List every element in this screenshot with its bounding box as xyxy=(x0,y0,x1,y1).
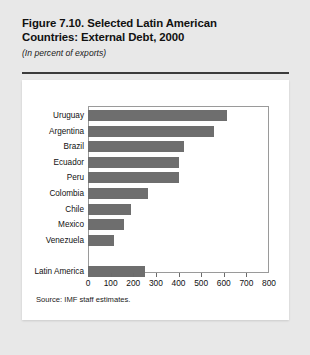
bar xyxy=(88,141,184,152)
bar-category-label: Chile xyxy=(65,204,84,215)
x-axis-tick xyxy=(179,273,180,277)
x-axis-tick-label: 100 xyxy=(104,278,118,288)
bar xyxy=(88,172,179,183)
x-axis-tick xyxy=(201,273,202,277)
x-axis-tick-label: 500 xyxy=(194,278,208,288)
figure-title-line-1: Figure 7.10. Selected Latin American xyxy=(22,16,290,30)
bar xyxy=(88,235,114,246)
bar-category-label: Colombia xyxy=(49,188,84,199)
bar-category-label: Brazil xyxy=(64,141,84,152)
x-axis-tick-label: 800 xyxy=(262,278,276,288)
bar-row: Venezuela xyxy=(88,235,269,246)
bar xyxy=(88,110,227,121)
header-divider xyxy=(22,72,289,74)
x-axis-tick-label: 200 xyxy=(126,278,140,288)
bar-row: Brazil xyxy=(88,141,269,152)
x-axis-tick-label: 700 xyxy=(239,278,253,288)
x-axis-tick-label: 0 xyxy=(86,278,91,288)
bar-category-label: Argentina xyxy=(49,126,84,137)
bar-row: Mexico xyxy=(88,219,269,230)
bar-category-label: Ecuador xyxy=(54,157,85,168)
bar xyxy=(88,157,179,168)
bar-category-label: Latin America xyxy=(34,266,84,277)
bar xyxy=(88,126,214,137)
bar-row: Peru xyxy=(88,172,269,183)
bar-row: Chile xyxy=(88,204,269,215)
bar-row: Ecuador xyxy=(88,157,269,168)
x-axis-tick-label: 300 xyxy=(149,278,163,288)
bar-category-label: Mexico xyxy=(58,219,84,230)
bar xyxy=(88,188,148,199)
bar xyxy=(88,204,131,215)
x-axis-tick-label: 600 xyxy=(217,278,231,288)
plot-area: UruguayArgentinaBrazilEcuadorPeruColombi… xyxy=(22,80,289,320)
bar-category-label: Uruguay xyxy=(53,110,84,121)
x-axis-tick-labels: 0100200300400500600700800 xyxy=(88,278,269,290)
x-axis-tick xyxy=(133,273,134,277)
bar-row: Uruguay xyxy=(88,110,269,121)
figure-subtitle: (In percent of exports) xyxy=(22,48,290,59)
source-note: Source: IMF staff estimates. xyxy=(36,295,130,304)
figure-container: Figure 7.10. Selected Latin American Cou… xyxy=(0,0,310,355)
x-axis-tick xyxy=(156,273,157,277)
bar-category-label: Venezuela xyxy=(46,235,84,246)
bar-category-label: Peru xyxy=(67,172,84,183)
x-axis-ticks xyxy=(88,273,269,277)
bar-row: Argentina xyxy=(88,126,269,137)
figure-header: Figure 7.10. Selected Latin American Cou… xyxy=(22,16,290,59)
bar-row: Colombia xyxy=(88,188,269,199)
x-axis-tick xyxy=(246,273,247,277)
x-axis-tick-label: 400 xyxy=(172,278,186,288)
figure-title-line-2: Countries: External Debt, 2000 xyxy=(22,30,290,44)
chart-panel: UruguayArgentinaBrazilEcuadorPeruColombi… xyxy=(22,80,289,320)
page-title: Figure 7.10. Selected Latin American Cou… xyxy=(22,16,290,45)
x-axis-tick xyxy=(224,273,225,277)
x-axis-tick xyxy=(111,273,112,277)
bar xyxy=(88,219,124,230)
